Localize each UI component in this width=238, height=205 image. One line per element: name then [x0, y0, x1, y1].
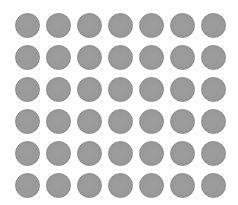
- circle-icon: [139, 13, 164, 38]
- circle-icon: [201, 77, 226, 102]
- circle-icon: [77, 173, 102, 198]
- circle-icon: [77, 77, 102, 102]
- circle-icon: [170, 45, 195, 70]
- circle-icon: [201, 13, 226, 38]
- circle-icon: [15, 13, 40, 38]
- circle-icon: [108, 45, 133, 70]
- circle-icon: [139, 141, 164, 166]
- circle-icon: [108, 77, 133, 102]
- circle-icon: [15, 77, 40, 102]
- circle-icon: [139, 45, 164, 70]
- circle-icon: [46, 141, 71, 166]
- circle-icon: [170, 109, 195, 134]
- circle-icon: [139, 109, 164, 134]
- circle-icon: [77, 141, 102, 166]
- circle-icon: [170, 141, 195, 166]
- circle-icon: [46, 109, 71, 134]
- circle-icon: [201, 141, 226, 166]
- circle-icon: [108, 141, 133, 166]
- circle-icon: [46, 45, 71, 70]
- circle-icon: [15, 173, 40, 198]
- circle-icon: [77, 109, 102, 134]
- circle-icon: [139, 77, 164, 102]
- circle-icon: [77, 13, 102, 38]
- circle-grid: [0, 0, 238, 205]
- circle-icon: [46, 13, 71, 38]
- circle-icon: [201, 173, 226, 198]
- circle-icon: [170, 13, 195, 38]
- circle-icon: [77, 45, 102, 70]
- circle-icon: [139, 173, 164, 198]
- circle-icon: [108, 13, 133, 38]
- circle-icon: [15, 45, 40, 70]
- circle-icon: [15, 141, 40, 166]
- circle-icon: [46, 173, 71, 198]
- circle-icon: [108, 173, 133, 198]
- circle-icon: [46, 77, 71, 102]
- circle-icon: [108, 109, 133, 134]
- circle-icon: [170, 77, 195, 102]
- circle-icon: [15, 109, 40, 134]
- circle-icon: [201, 45, 226, 70]
- circle-icon: [201, 109, 226, 134]
- circle-icon: [170, 173, 195, 198]
